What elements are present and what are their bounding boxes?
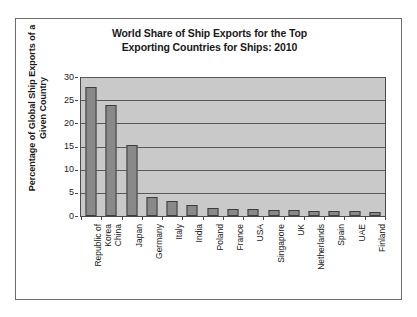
plot-area <box>80 77 386 217</box>
x-axis-tick-label-line: Japan <box>135 224 145 247</box>
y-axis-tick-mark <box>75 170 78 171</box>
y-axis-tick-label: 20 <box>50 119 74 128</box>
bar-slot <box>284 77 304 216</box>
bar-slot <box>263 77 283 216</box>
bar-slot <box>365 77 385 216</box>
bar[interactable] <box>227 209 238 216</box>
bar-series <box>81 77 385 216</box>
bar[interactable] <box>309 211 320 216</box>
bar[interactable] <box>268 210 279 216</box>
bar-slot <box>223 77 243 216</box>
x-axis-tick-label-line: India <box>195 224 205 242</box>
y-axis-tick-mark <box>75 100 78 101</box>
x-axis-tick-label-line: France <box>236 224 246 250</box>
y-axis-tick-labels: 051015202530 <box>54 77 78 216</box>
x-axis-tick-label: India <box>195 224 205 242</box>
x-axis-tick-label: Germany <box>155 224 165 259</box>
x-axis-tick-label-line: Germany <box>155 224 165 259</box>
y-axis-tick-mark <box>75 77 78 78</box>
x-axis-tick-label-line: Netherlands <box>317 224 327 270</box>
x-axis-tick-label: China <box>114 224 124 246</box>
bar-slot <box>182 77 202 216</box>
x-axis-tick-label-line: Finland <box>378 224 388 252</box>
x-axis-tick-label-line: Korea <box>104 224 114 267</box>
x-axis-tick-label: USA <box>256 224 266 241</box>
y-axis-tick-mark <box>75 216 78 217</box>
x-axis-tick-label-line: UAE <box>358 224 368 241</box>
x-axis-tick-label: Poland <box>216 224 226 250</box>
x-axis-tick-label: Singapore <box>277 224 287 263</box>
bar[interactable] <box>86 87 97 216</box>
bar-slot <box>304 77 324 216</box>
y-axis-tick-label: 10 <box>50 165 74 174</box>
x-axis-tick-label: Netherlands <box>317 224 327 270</box>
y-axis-label-line-1: Percentage of Global Ship Exports of a <box>27 23 38 193</box>
bar[interactable] <box>167 201 178 216</box>
bar-slot <box>101 77 121 216</box>
chart-title-line-1: World Share of Ship Exports for the Top <box>16 27 403 41</box>
bar[interactable] <box>187 205 198 216</box>
x-axis-tick-label-line: UK <box>297 224 307 236</box>
x-axis-tick-label-line: USA <box>256 224 266 241</box>
bar-slot <box>324 77 344 216</box>
y-axis-tick-mark <box>75 123 78 124</box>
bar[interactable] <box>329 211 340 216</box>
x-axis-tick-label: Japan <box>135 224 145 247</box>
y-axis-tick-label: 0 <box>50 212 74 221</box>
y-axis-tick-label: 5 <box>50 188 74 197</box>
y-axis-label-line-2: Given Country <box>38 23 49 193</box>
x-axis-tick-label: UK <box>297 224 307 236</box>
bar[interactable] <box>288 210 299 216</box>
x-axis-tick-label: France <box>236 224 246 250</box>
bar-slot <box>122 77 142 216</box>
x-axis-tick-labels: Republic ofKoreaChinaJapanGermanyItalyIn… <box>80 218 386 300</box>
x-axis-tick-label-line: Italy <box>175 224 185 240</box>
y-axis-tick-mark <box>75 147 78 148</box>
bar-slot <box>344 77 364 216</box>
chart-figure: World Share of Ship Exports for the Top … <box>15 18 402 300</box>
x-axis-tick-label: Republic ofKorea <box>94 224 113 267</box>
x-axis-tick-label: Spain <box>337 224 347 246</box>
y-axis-tick-label: 15 <box>50 142 74 151</box>
chart-title-line-2: Exporting Countries for Ships: 2010 <box>16 41 403 55</box>
x-axis-tick-label-line: Spain <box>337 224 347 246</box>
x-axis-tick-label-line: Poland <box>216 224 226 250</box>
bar[interactable] <box>248 209 259 216</box>
y-axis-tick-mark <box>75 193 78 194</box>
bar-slot <box>142 77 162 216</box>
x-axis-tick-label: Italy <box>175 224 185 240</box>
bar-slot <box>203 77 223 216</box>
x-axis-tick-label-line: Singapore <box>277 224 287 263</box>
bar-slot <box>243 77 263 216</box>
y-axis-tick-label: 25 <box>50 96 74 105</box>
bar-slot <box>162 77 182 216</box>
bar[interactable] <box>349 211 360 216</box>
bar-slot <box>81 77 101 216</box>
y-axis-tick-label: 30 <box>50 73 74 82</box>
bar[interactable] <box>146 197 157 216</box>
y-axis-label: Percentage of Global Ship Exports of a G… <box>27 23 49 193</box>
x-axis-tick-label-line: China <box>114 224 124 246</box>
chart-title: World Share of Ship Exports for the Top … <box>16 27 403 54</box>
x-axis-tick-label: UAE <box>358 224 368 241</box>
bar[interactable] <box>126 145 137 216</box>
bar[interactable] <box>207 208 218 216</box>
bar[interactable] <box>106 105 117 216</box>
x-axis-tick-label: Finland <box>378 224 388 252</box>
bar[interactable] <box>369 212 380 216</box>
